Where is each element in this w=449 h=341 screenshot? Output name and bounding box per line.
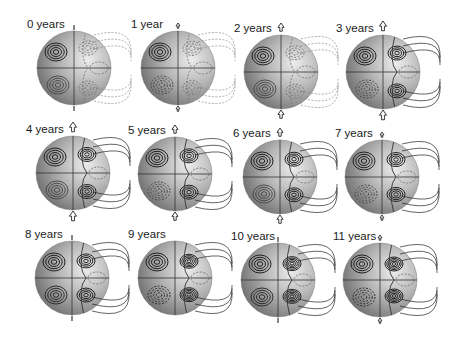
panel-label: 6 years xyxy=(233,127,271,139)
north-arrow-icon xyxy=(176,23,180,28)
south-arrow-icon xyxy=(379,110,386,120)
south-arrow-icon xyxy=(277,215,283,223)
panel-label: 4 years xyxy=(26,123,64,135)
panel-label: 7 years xyxy=(335,127,373,139)
panel-label: 3 years xyxy=(336,22,374,34)
panel-label: 8 years xyxy=(25,228,63,240)
sphere-panel: 11 years xyxy=(333,230,437,323)
sphere-panel: 9 years xyxy=(128,228,232,315)
sphere-panel: 10 years xyxy=(231,230,335,323)
south-arrow-icon xyxy=(69,211,76,221)
north-arrow-icon xyxy=(378,235,382,240)
sphere-panel: 0 years xyxy=(27,18,131,111)
south-arrow-icon xyxy=(176,106,180,111)
north-arrow-icon xyxy=(379,21,386,31)
sphere-panel: 2 years xyxy=(234,22,338,118)
panel-label: 1 year xyxy=(131,18,163,30)
north-arrow-icon xyxy=(277,128,283,136)
north-arrow-icon xyxy=(380,132,384,137)
sphere-panel: 1 year xyxy=(131,18,235,111)
panel-label: 10 years xyxy=(231,230,275,242)
south-arrow-icon xyxy=(172,212,178,220)
south-arrow-icon xyxy=(380,215,384,220)
panel-label: 11 years xyxy=(333,230,377,242)
panel-label: 2 years xyxy=(234,22,272,34)
panel-label: 0 years xyxy=(27,18,65,30)
north-arrow-icon xyxy=(278,23,284,31)
sphere-panel: 6 years xyxy=(233,127,337,223)
sphere-panel: 3 years xyxy=(336,21,440,120)
south-arrow-icon xyxy=(378,318,382,323)
sphere-panel: 8 years xyxy=(25,228,129,321)
panel-label: 5 years xyxy=(128,124,166,136)
sphere-panel: 4 years xyxy=(26,122,130,221)
panel-label: 9 years xyxy=(128,228,166,240)
sphere-panel: 7 years xyxy=(335,127,439,220)
sphere-panel: 5 years xyxy=(128,124,232,220)
north-arrow-icon xyxy=(172,125,178,133)
south-arrow-icon xyxy=(278,110,284,118)
north-arrow-icon xyxy=(69,122,76,132)
sphere-evolution-figure: 0 years1 year2 years3 years4 years5 year… xyxy=(0,0,449,341)
